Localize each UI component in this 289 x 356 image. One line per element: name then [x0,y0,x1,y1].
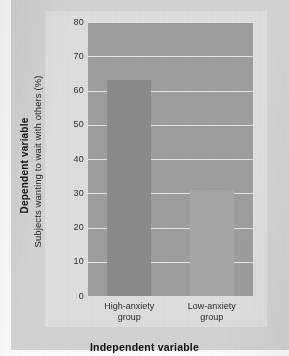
x-tick-label-line: group [171,312,254,323]
x-tick-label-line: group [88,312,171,323]
bar-low-anxiety-group [190,190,234,296]
plot-area [88,22,253,296]
y-tick-label-0: 0 [79,292,84,301]
y-tick-label-20: 20 [74,223,84,232]
gridline-70 [88,56,253,57]
y-tick-label-30: 30 [74,189,84,198]
y-tick-label-40: 40 [74,155,84,164]
dependent-variable-label: Dependent variable [19,106,30,226]
x-tick-label-1: Low-anxietygroup [171,301,254,329]
y-axis-tick-labels: 80706050403020100 [58,0,84,356]
y-tick-label-70: 70 [74,52,84,61]
x-axis-tick-labels: High-anxietygroupLow-anxietygroup [88,301,253,329]
x-tick-label-0: High-anxietygroup [88,301,171,329]
y-tick-label-80: 80 [74,18,84,27]
y-tick-label-10: 10 [74,257,84,266]
independent-variable-label: Independent variable [0,341,289,353]
x-tick-label-line: Low-anxiety [171,301,254,312]
y-tick-label-50: 50 [74,120,84,129]
y-tick-label-60: 60 [74,86,84,95]
gridline-80 [88,22,253,23]
y-axis-title: Subjects wanting to wait with others (%) [32,62,43,262]
bar-high-anxiety-group [107,80,151,296]
chart-figure: Dependent variable Subjects wanting to w… [0,0,289,356]
x-tick-label-line: High-anxiety [88,301,171,312]
